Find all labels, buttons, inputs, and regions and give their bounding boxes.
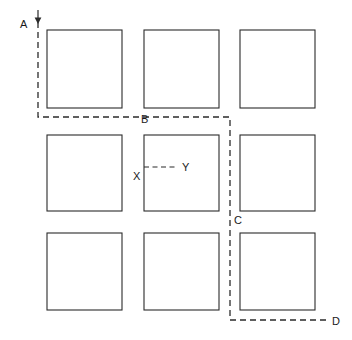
grid-square-r2c1: [47, 135, 122, 211]
grid-square-r3c2: [144, 233, 219, 310]
grid-square-r1c1: [47, 30, 122, 108]
diagram-canvas: A B X Y C D: [0, 0, 352, 340]
grid-path-diagram: A B X Y C D: [0, 0, 352, 340]
label-x: X: [133, 170, 141, 182]
grid-square-r1c2: [144, 30, 219, 108]
label-y: Y: [182, 161, 190, 173]
label-d: D: [332, 315, 340, 327]
grid-square-r3c3: [240, 233, 315, 310]
label-b: B: [141, 113, 148, 125]
label-c: C: [234, 214, 242, 226]
square-grid: [47, 30, 315, 310]
grid-square-r2c3: [240, 135, 315, 211]
grid-square-r1c3: [240, 30, 315, 108]
grid-square-r3c1: [47, 233, 122, 310]
grid-square-r2c2: [144, 135, 219, 211]
label-a: A: [20, 18, 28, 30]
down-arrow-icon: [35, 10, 42, 24]
